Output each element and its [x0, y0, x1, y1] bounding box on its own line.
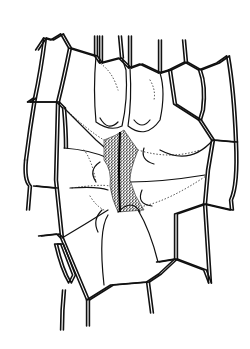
cell-wall [61, 290, 63, 330]
stoma-illustration [0, 0, 250, 349]
cell-wall [206, 204, 232, 210]
subsidiary-cell-wall [102, 215, 108, 285]
guard-cell-arc [143, 148, 154, 164]
cell-wall [201, 120, 237, 142]
stomatal-pore [104, 130, 144, 212]
stipple-line [150, 80, 155, 100]
cell-wall [171, 56, 229, 70]
cell-wall [57, 48, 69, 102]
cell-wall [121, 36, 123, 58]
guard-cell-arc [134, 120, 150, 125]
cell-wall [63, 108, 65, 148]
subsidiary-cell-walls [62, 56, 213, 285]
cell-wall [199, 70, 203, 120]
cell-wall [65, 108, 67, 148]
cell-wall [177, 204, 206, 259]
cell-wall [27, 38, 46, 160]
pore-stipple [104, 130, 144, 212]
subsidiary-cell-wall [95, 56, 127, 128]
pore-slit [119, 132, 120, 212]
stipple-line [90, 196, 104, 210]
stipple-line [84, 150, 96, 182]
cell-wall [227, 56, 235, 142]
cell-wall [63, 34, 171, 73]
subsidiary-cell-wall [138, 210, 158, 262]
cell-wall [119, 36, 121, 58]
cell-wall [36, 186, 57, 188]
guard-cell-arc [93, 162, 100, 182]
stipple-line [98, 62, 118, 90]
stipple-line [144, 176, 206, 206]
guard-cell-arc [96, 210, 102, 232]
cell-wall [183, 40, 185, 62]
line-drawing [0, 0, 250, 349]
cell-wall [63, 290, 65, 330]
subsidiary-cell-wall [130, 175, 205, 182]
subsidiary-cell-wall [62, 210, 108, 238]
subsidiary-cell-wall [160, 140, 213, 156]
guard-cell-arc [140, 190, 152, 206]
cell-wall [185, 40, 187, 62]
cell-wall [175, 204, 204, 259]
subsidiary-cell-wall [128, 68, 163, 132]
cell-wall [61, 34, 169, 73]
guard-cell-arc [100, 118, 118, 126]
cell-wall [59, 48, 71, 102]
